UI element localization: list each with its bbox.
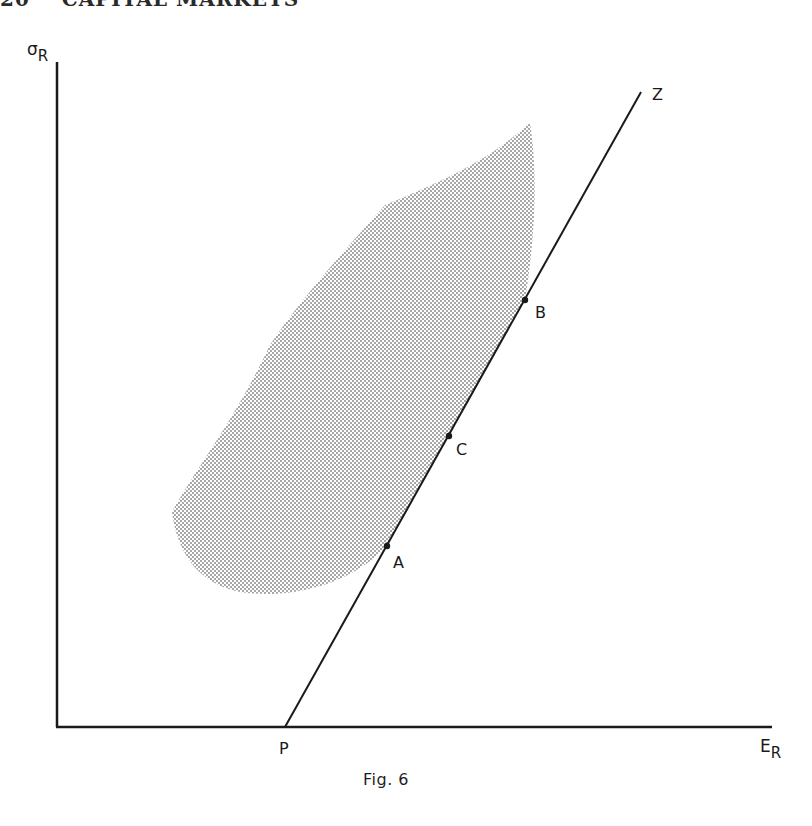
point-c-label: C <box>456 440 467 459</box>
figure-caption: Fig. 6 <box>363 770 409 789</box>
x-axis-label: ER <box>760 736 781 762</box>
feasible-region <box>172 123 535 594</box>
point-b-marker <box>522 297 528 303</box>
portfolio-diagram: σR ER P Z A C B <box>0 0 812 826</box>
point-p-label: P <box>279 739 289 758</box>
point-a-label: A <box>393 553 404 572</box>
point-b-label: B <box>535 303 546 322</box>
point-a-marker <box>384 543 390 549</box>
point-c-marker <box>446 433 452 439</box>
y-axis-label: σR <box>27 39 48 65</box>
point-z-label: Z <box>652 85 663 104</box>
